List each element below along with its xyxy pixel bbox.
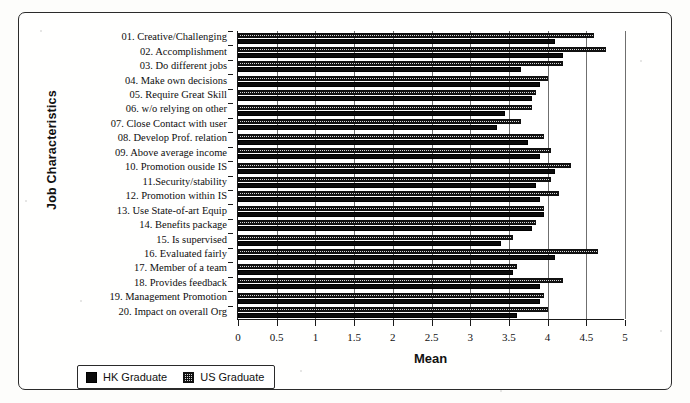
bar-hk-graduate [238,313,517,318]
bar-row [238,103,624,117]
bar-row [238,262,624,276]
bar-hk-graduate [238,226,532,231]
y-axis-tick [228,31,233,32]
x-axis-tick-label: 5 [605,331,645,343]
x-axis-tick-label: 1 [295,331,335,343]
chart-legend: HK Graduate US Graduate [77,365,275,389]
plot-area: 00.511.522.533.544.55 [237,31,624,320]
legend-swatch-hk-icon [86,372,97,383]
bar-row [238,306,624,320]
bar-row [238,219,624,233]
bar-row [238,277,624,291]
x-axis-tick [548,320,549,326]
legend-label-us: US Graduate [200,371,264,383]
bar-row [238,132,624,146]
y-axis-category-label: 17. Member of a team [19,263,227,274]
x-axis-tick [238,320,239,326]
bar-us-graduate [238,235,513,240]
bar-us-graduate [238,119,521,124]
x-axis-tick [509,320,510,326]
bar-row [238,74,624,88]
y-axis-tick [228,204,233,205]
bar-row [238,233,624,247]
x-axis-tick [354,320,355,326]
bar-hk-graduate [238,197,540,202]
y-axis-tick [228,233,233,234]
scan-speckle [500,390,502,392]
y-axis-tick [228,118,233,119]
y-axis-category-label: 05. Require Great Skill [19,90,227,101]
scan-speckle [40,30,42,32]
y-axis-category-label: 07. Close Contact with user [19,119,227,130]
bar-hk-graduate [238,96,532,101]
x-axis-tick-label: 0.5 [257,331,297,343]
bar-hk-graduate [238,67,521,72]
scan-speckle [25,200,27,202]
bar-us-graduate [238,278,563,283]
bar-row [238,45,624,59]
y-axis-tick [228,262,233,263]
bar-us-graduate [238,163,571,168]
y-axis-category-label: 15. Is supervised [19,235,227,246]
x-axis-tick [586,320,587,326]
scan-speckle [120,120,122,122]
bar-us-graduate [238,61,563,66]
scan-speckle [640,60,642,62]
y-axis-tick [228,306,233,307]
bar-us-graduate [238,47,606,52]
bar-us-graduate [238,76,548,81]
y-axis-category-label: 03. Do different jobs [19,61,227,72]
bar-us-graduate [238,105,532,110]
bar-row [238,248,624,262]
y-axis-tick [228,60,233,61]
y-axis-tick [228,190,233,191]
bar-us-graduate [238,220,536,225]
bar-row [238,89,624,103]
bar-row [238,190,624,204]
bar-hk-graduate [238,183,536,188]
y-axis-tick [228,161,233,162]
scan-speckle [660,330,662,332]
bar-us-graduate [238,148,551,153]
bar-us-graduate [238,191,559,196]
x-axis-title: Mean [237,351,624,366]
bar-hk-graduate [238,111,505,116]
bar-row [238,161,624,175]
legend-label-hk: HK Graduate [103,371,167,383]
bar-row [238,176,624,190]
x-axis-tick-label: 2 [373,331,413,343]
x-axis-tick-label: 0 [218,331,258,343]
y-axis-category-label: 09. Above average income [19,148,227,159]
y-axis-tick [228,291,233,292]
x-axis-tick-label: 4.5 [566,331,606,343]
y-axis-category-label: 13. Use State-of-art Equip [19,206,227,217]
x-axis-tick-label: 3 [450,331,490,343]
x-axis-tick-label: 3.5 [489,331,529,343]
legend-swatch-us-icon [183,372,194,383]
y-axis-tick [228,248,233,249]
bar-hk-graduate [238,125,497,130]
bar-hk-graduate [238,39,555,44]
x-axis-tick-label: 1.5 [334,331,374,343]
x-axis-tick-label: 2.5 [412,331,452,343]
y-axis-category-label: 14. Benefits package [19,220,227,231]
bar-hk-graduate [238,241,501,246]
x-axis-tick [277,320,278,326]
y-axis-category-label: 08. Develop Prof. relation [19,133,227,144]
x-axis-tick-label: 4 [528,331,568,343]
bar-hk-graduate [238,140,528,145]
bar-us-graduate [238,33,594,38]
scan-speckle [300,370,302,372]
legend-item-us: US Graduate [183,371,264,383]
bar-row [238,147,624,161]
x-axis-tick [625,320,626,326]
bar-row [238,291,624,305]
scan-speckle [80,300,82,302]
figure-page: Job Characteristics 01. Creative/Challen… [0,0,690,403]
x-axis-tick [315,320,316,326]
x-axis-tick [393,320,394,326]
figure-frame: Job Characteristics 01. Creative/Challen… [18,12,672,390]
y-axis-tick [228,103,233,104]
y-axis-category-label: 10. Promotion ouside IS [19,162,227,173]
bar-row [238,204,624,218]
